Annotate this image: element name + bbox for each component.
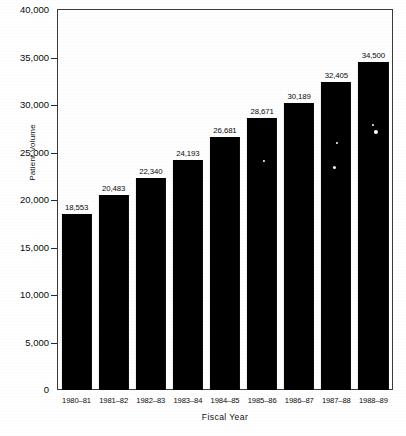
bars-layer: 18,55320,48322,34024,19326,68128,67130,1… [58,10,392,390]
x-tick-label: 1988–89 [355,396,392,406]
bar[interactable] [99,195,129,390]
y-tick-label: 25,000 [0,148,53,158]
y-tick-label: 35,000 [0,53,53,63]
scan-speck [372,124,374,126]
y-axis-tick-labels: 05,00010,00015,00020,00025,00030,00035,0… [0,0,53,436]
bar[interactable] [247,118,277,390]
y-tick-label: 0 [0,385,53,395]
bar[interactable] [173,160,203,390]
bar-value-label: 30,189 [288,92,311,101]
y-tick-label: 40,000 [0,5,53,15]
bar-value-label: 28,671 [250,107,273,116]
x-tick-label: 1983–84 [169,396,206,406]
scan-speck [333,166,336,169]
y-tick-mark [51,153,57,154]
x-tick-label: 1984–85 [206,396,243,406]
bar[interactable] [61,214,91,390]
bar-group: 26,681 [206,10,243,390]
bar[interactable] [136,178,166,390]
x-tick-label: 1985–86 [244,396,281,406]
x-tick-label: 1981–82 [95,396,132,406]
bar-chart: Patient Volume 05,00010,00015,00020,0002… [0,0,406,436]
bar[interactable] [284,103,314,390]
scan-speck [336,142,338,144]
bar-value-label: 34,500 [362,51,385,60]
bar-group: 34,500 [355,10,392,390]
y-tick-mark [51,295,57,296]
x-axis-tick-labels: 1980–811981–821982–831983–841984–851985–… [58,396,392,410]
bar-value-label: 24,193 [176,149,199,158]
y-tick-label: 5,000 [0,338,53,348]
y-tick-mark [51,105,57,106]
y-tick-label: 15,000 [0,243,53,253]
y-tick-label: 20,000 [0,195,53,205]
y-tick-mark [51,248,57,249]
y-tick-mark [51,343,57,344]
bar-value-label: 26,681 [213,126,236,135]
y-tick-label: 30,000 [0,100,53,110]
x-tick-label: 1982–83 [132,396,169,406]
bar-group: 18,553 [58,10,95,390]
scan-speck [374,130,378,134]
scan-speck [263,160,265,162]
bar-value-label: 18,553 [65,203,88,212]
y-tick-mark [51,200,57,201]
x-tick-label: 1980–81 [58,396,95,406]
bar[interactable] [321,82,351,390]
x-tick-label: 1986–87 [281,396,318,406]
bar-group: 32,405 [318,10,355,390]
bar[interactable] [358,62,388,390]
bar-group: 28,671 [244,10,281,390]
bar-group: 22,340 [132,10,169,390]
x-tick-label: 1987–88 [318,396,355,406]
bar-value-label: 20,483 [102,184,125,193]
y-tick-label: 10,000 [0,290,53,300]
bar-group: 30,189 [281,10,318,390]
bar[interactable] [210,137,240,390]
bar-group: 24,193 [169,10,206,390]
y-tick-mark [51,58,57,59]
bar-value-label: 22,340 [139,167,162,176]
bar-value-label: 32,405 [325,71,348,80]
bar-group: 20,483 [95,10,132,390]
x-axis-title: Fiscal Year [57,412,393,422]
